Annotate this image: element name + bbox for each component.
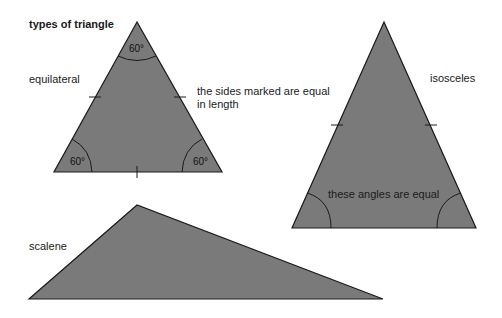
- equal-sides-note-line1: the sides marked are equal: [197, 85, 330, 98]
- scalene-label: scalene: [29, 240, 67, 253]
- angle-label: 60°: [129, 43, 144, 54]
- equal-angles-note: these angles are equal: [328, 188, 439, 201]
- equilateral-label: equilateral: [29, 73, 80, 86]
- angle-label: 60°: [70, 156, 85, 167]
- equal-sides-note-line2: in length: [197, 98, 239, 111]
- angle-label: 60°: [193, 156, 208, 167]
- diagram-title: types of triangle: [29, 18, 114, 31]
- isosceles-label: isosceles: [430, 72, 475, 85]
